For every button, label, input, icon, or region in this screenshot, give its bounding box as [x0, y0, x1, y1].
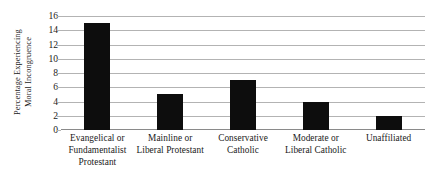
- x-axis-category-labels: Evangelical orFundamentalistProtestantMa…: [61, 132, 425, 180]
- y-tick-mark: [57, 73, 61, 74]
- y-axis-tick-marks: [57, 16, 61, 130]
- y-axis-title: Percentage Experiencing Moral Incongruen…: [8, 7, 38, 137]
- y-tick-mark: [57, 116, 61, 117]
- gridline: [61, 73, 425, 74]
- gridline: [61, 59, 425, 60]
- x-category-label-line: Unaffiliated: [342, 132, 433, 144]
- x-category-label-line: Liberal Catholic: [269, 144, 362, 156]
- y-tick-mark: [57, 130, 61, 131]
- y-tick-mark: [57, 45, 61, 46]
- y-axis-tick-labels: 0246810121416: [40, 16, 58, 130]
- y-tick-mark: [57, 102, 61, 103]
- gridline: [61, 45, 425, 46]
- bar[interactable]: [157, 94, 183, 130]
- x-category-label-line: Protestant: [51, 156, 144, 168]
- x-category-label: Unaffiliated: [342, 132, 433, 144]
- bar[interactable]: [84, 23, 110, 130]
- bar[interactable]: [303, 102, 329, 131]
- y-axis-title-line-2: Moral Incongruence: [23, 37, 34, 107]
- bar[interactable]: [376, 116, 402, 130]
- y-tick-mark: [57, 30, 61, 31]
- plot-area: [61, 16, 425, 130]
- y-tick-mark: [57, 87, 61, 88]
- gridline: [61, 30, 425, 31]
- y-tick-mark: [57, 59, 61, 60]
- bar-chart: Percentage Experiencing Moral Incongruen…: [0, 0, 433, 181]
- gridline: [61, 16, 425, 17]
- y-tick-mark: [57, 16, 61, 17]
- y-axis-title-line-1: Percentage Experiencing: [12, 29, 23, 115]
- bar[interactable]: [230, 80, 256, 130]
